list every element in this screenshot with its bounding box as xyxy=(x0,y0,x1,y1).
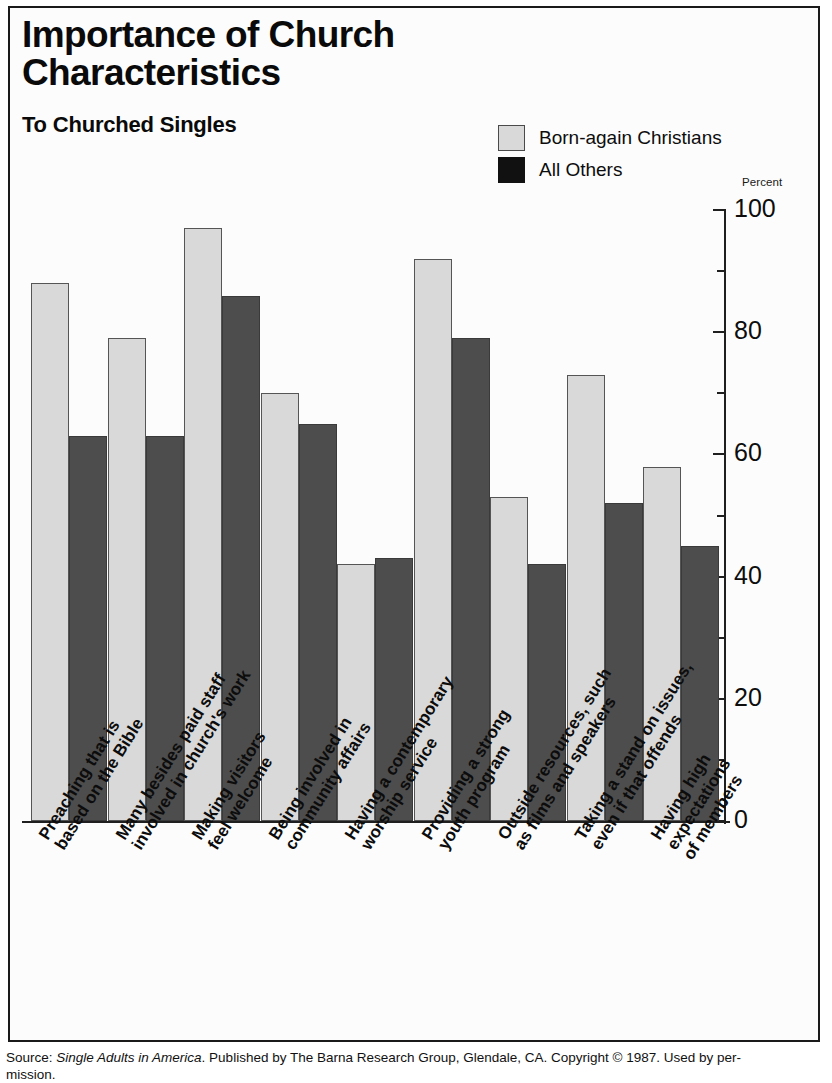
y-tick-80 xyxy=(713,331,726,333)
y-tick-label-80: 80 xyxy=(734,318,762,343)
source-prefix: Source: xyxy=(6,1050,56,1065)
source-continuation: mission. xyxy=(6,1067,56,1082)
source-rest: . Published by The Barna Research Group,… xyxy=(202,1050,742,1065)
y-tick-50 xyxy=(717,515,726,517)
y-tick-label-60: 60 xyxy=(734,440,762,465)
y-tick-60 xyxy=(713,453,726,455)
source-note: Source: Single Adults in America. Publis… xyxy=(6,1050,826,1083)
bar-group-1-series-1 xyxy=(31,283,69,821)
y-tick-90 xyxy=(717,270,726,272)
y-tick-label-0: 0 xyxy=(734,807,748,832)
plot-area: 020406080100 Preaching that is based on … xyxy=(8,0,820,1036)
source-publication-title: Single Adults in America xyxy=(56,1050,201,1065)
y-tick-label-40: 40 xyxy=(734,563,762,588)
bar-group-5-series-1 xyxy=(337,564,375,821)
y-tick-label-100: 100 xyxy=(734,196,776,221)
y-tick-100 xyxy=(713,209,726,211)
y-tick-70 xyxy=(717,392,726,394)
